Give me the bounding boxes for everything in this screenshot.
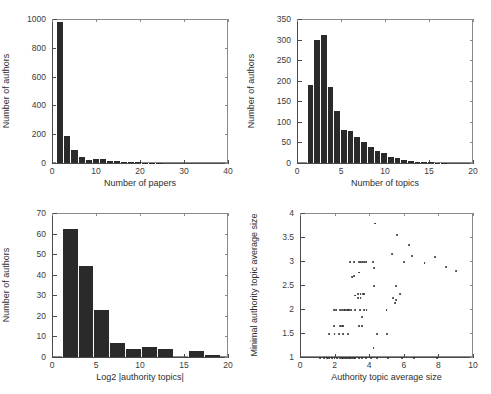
y-tick-authority-topic-size-scatter-0 (301, 357, 305, 358)
scatter-point (392, 297, 394, 299)
x-ticklabel-authority-topic-size-scatter-5: 10 (468, 361, 477, 370)
scatter-point (434, 256, 436, 258)
y-tick-authority-topic-size-scatter-6 (301, 213, 305, 214)
x-ticklabel-authority-topic-size-scatter-3: 6 (401, 361, 406, 370)
x-tick-top-authority-topic-size-scatter-2 (369, 213, 370, 216)
scatter-point (391, 253, 393, 255)
scatter-point (350, 309, 352, 311)
scatter-point (361, 357, 363, 359)
scatter-point (354, 357, 356, 359)
y-tick-right-authority-topic-size-scatter-2 (470, 309, 473, 310)
scatter-point (354, 309, 356, 311)
scatter-point (353, 261, 355, 263)
x-tick-authority-topic-size-scatter-5 (473, 354, 474, 358)
scatter-point (445, 266, 447, 268)
y-tick-authority-topic-size-scatter-3 (301, 285, 305, 286)
scatter-point (387, 357, 389, 359)
scatter-point (408, 244, 410, 246)
scatter-point (347, 333, 349, 335)
scatter-point (354, 295, 356, 297)
scatter-point (424, 262, 426, 264)
scatter-point (354, 275, 356, 277)
x-tick-authority-topic-size-scatter-4 (438, 354, 439, 358)
y-tick-right-authority-topic-size-scatter-5 (470, 237, 473, 238)
scatter-point (361, 316, 363, 318)
scatter-point (328, 333, 330, 335)
scatter-point (361, 325, 363, 327)
scatter-point (365, 261, 367, 263)
scatter-point (333, 325, 335, 327)
scatter-point (358, 271, 360, 273)
scatter-point (363, 293, 365, 295)
scatter-point (342, 333, 344, 335)
y-axis-label-authority-topic-size-scatter: Minimal authority topic average size (249, 213, 259, 356)
y-tick-right-authority-topic-size-scatter-3 (470, 285, 473, 286)
scatter-point (386, 333, 388, 335)
y-tick-right-authority-topic-size-scatter-0 (470, 357, 473, 358)
scatter-point (436, 357, 438, 359)
scatter-point (335, 309, 337, 311)
scatter-point (411, 255, 413, 257)
x-tick-top-authority-topic-size-scatter-5 (473, 213, 474, 216)
scatter-point (372, 261, 374, 263)
scatter-point (358, 325, 360, 327)
scatter-point (360, 297, 362, 299)
y-tick-right-authority-topic-size-scatter-6 (470, 213, 473, 214)
x-ticklabel-authority-topic-size-scatter-4: 8 (436, 361, 441, 370)
y-tick-authority-topic-size-scatter-5 (301, 237, 305, 238)
chart-panel-authority-topic-size-scatter: 024681011.522.533.54Authority topic aver… (0, 0, 491, 394)
scatter-point (394, 302, 396, 304)
scatter-point (351, 276, 353, 278)
scatter-point (395, 285, 397, 287)
x-tick-top-authority-topic-size-scatter-1 (335, 213, 336, 216)
scatter-point (334, 333, 336, 335)
scatter-point (401, 357, 403, 359)
x-tick-top-authority-topic-size-scatter-4 (438, 213, 439, 216)
scatter-point (386, 309, 388, 311)
scatter-point (358, 357, 360, 359)
scatter-point (396, 234, 398, 236)
y-tick-authority-topic-size-scatter-2 (301, 309, 305, 310)
scatter-point (413, 357, 415, 359)
scatter-point (338, 333, 340, 335)
scatter-point (373, 285, 375, 287)
scatter-point (399, 293, 401, 295)
scatter-point (374, 223, 376, 225)
scatter-point (370, 357, 372, 359)
figure-canvas: 01020304002004006008001000Number of pape… (0, 0, 491, 394)
y-tick-right-authority-topic-size-scatter-1 (470, 333, 473, 334)
scatter-point (403, 261, 405, 263)
scatter-point (366, 309, 368, 311)
x-ticklabel-authority-topic-size-scatter-1: 2 (332, 361, 337, 370)
scatter-point (376, 357, 378, 359)
x-tick-authority-topic-size-scatter-3 (404, 354, 405, 358)
y-tick-authority-topic-size-scatter-4 (301, 261, 305, 262)
plot-area-authority-topic-size-scatter (300, 213, 473, 357)
scatter-point (319, 357, 321, 359)
scatter-point (373, 347, 375, 349)
scatter-point (376, 333, 378, 335)
scatter-point (349, 261, 351, 263)
x-ticklabel-authority-topic-size-scatter-0: 0 (298, 361, 303, 370)
scatter-point (365, 357, 367, 359)
x-tick-top-authority-topic-size-scatter-3 (404, 213, 405, 216)
y-tick-right-authority-topic-size-scatter-4 (470, 261, 473, 262)
scatter-point (342, 325, 344, 327)
scatter-point (395, 299, 397, 301)
scatter-point (373, 267, 375, 269)
x-ticklabel-authority-topic-size-scatter-2: 4 (367, 361, 372, 370)
scatter-point (359, 309, 361, 311)
scatter-point (455, 270, 457, 272)
x-axis-label-authority-topic-size-scatter: Authority topic average size (331, 372, 442, 382)
y-tick-authority-topic-size-scatter-1 (301, 333, 305, 334)
